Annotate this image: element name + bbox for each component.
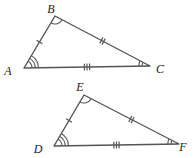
F-arc [168, 139, 169, 144]
vertex-label-D: D [33, 142, 43, 156]
figure-canvas: ABCDEF [0, 0, 194, 158]
triangle-def: DEF [33, 80, 188, 156]
A-arc [28, 61, 32, 68]
D-arc [58, 139, 62, 146]
vertex-label-C: C [156, 62, 165, 76]
vertex-label-E: E [75, 80, 84, 94]
C-arc [139, 61, 140, 66]
triangle-abc: ABC [3, 2, 165, 78]
vertex-label-B: B [47, 2, 55, 16]
vertex-label-A: A [3, 64, 12, 78]
triangle-abc-outline [24, 16, 150, 68]
triangles-group: ABCDEF [3, 2, 187, 156]
vertex-label-F: F [178, 140, 187, 154]
triangle-def-outline [54, 95, 179, 146]
geometry-figure: ABCDEF [0, 0, 194, 158]
